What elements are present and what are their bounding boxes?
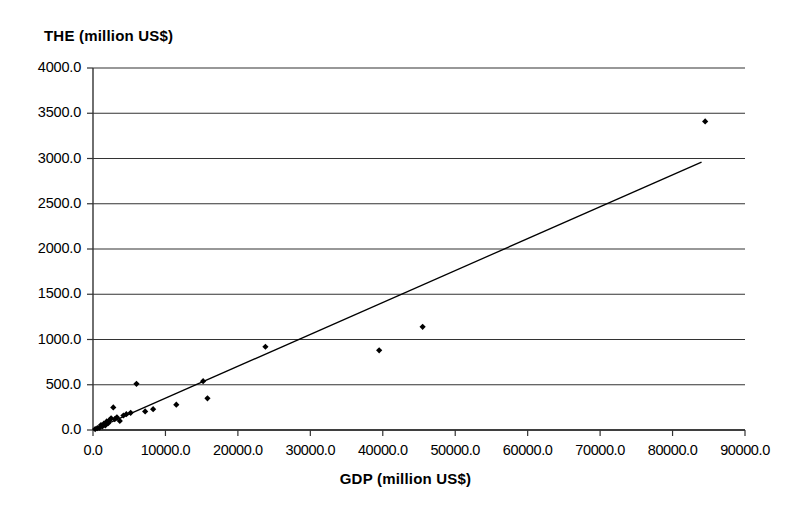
data-point-marker xyxy=(262,344,268,350)
data-point-marker xyxy=(420,324,426,330)
y-tick-label: 1000.0 xyxy=(0,331,81,347)
data-point-marker xyxy=(376,347,382,353)
y-tick-label: 2000.0 xyxy=(0,240,81,256)
data-point-marker xyxy=(133,381,139,387)
y-tick-label: 0.0 xyxy=(0,421,81,437)
x-tick-label: 90000.0 xyxy=(695,442,795,458)
trendline xyxy=(95,162,701,429)
data-point-marker xyxy=(702,118,708,124)
data-point-marker xyxy=(173,402,179,408)
plot-area xyxy=(0,0,811,515)
tick-marks-group xyxy=(87,68,745,436)
data-point-marker xyxy=(200,378,206,384)
y-tick-label: 1500.0 xyxy=(0,285,81,301)
y-tick-label: 2500.0 xyxy=(0,195,81,211)
y-tick-label: 4000.0 xyxy=(0,59,81,75)
y-tick-label: 3000.0 xyxy=(0,150,81,166)
x-axis-title: GDP (million US$) xyxy=(0,470,811,487)
scatter-chart-figure: THE (million US$) 0.0500.01000.01500.020… xyxy=(0,0,811,515)
y-tick-label: 500.0 xyxy=(0,376,81,392)
data-point-marker xyxy=(142,408,148,414)
y-tick-label: 3500.0 xyxy=(0,104,81,120)
gridlines-group xyxy=(93,68,745,430)
data-point-marker xyxy=(204,395,210,401)
data-point-marker xyxy=(150,406,156,412)
data-point-marker xyxy=(110,404,116,410)
